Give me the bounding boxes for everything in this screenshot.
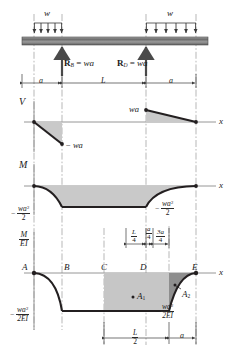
- shear-left-peak-label: − wa: [66, 140, 83, 150]
- shear-right-peak-label: wa: [129, 104, 139, 114]
- moment-left-num: wa: [18, 204, 27, 213]
- dim-left-a-label: a: [39, 76, 43, 85]
- dim-L-over-2-label: L 2: [132, 329, 138, 345]
- moment-right-min-label: − wa2 2: [155, 200, 174, 216]
- point-label-D: D: [140, 262, 147, 272]
- moment-y-axis-label: M: [19, 159, 27, 170]
- mei-x-axis-label: x: [219, 267, 223, 277]
- mei-left-sign: −: [10, 310, 14, 319]
- mei-axis-den: EI: [19, 240, 29, 248]
- centroid-A1-dot: [132, 296, 135, 299]
- moment-panel: [24, 164, 216, 215]
- moment-left-min-label: − wa2 2: [11, 205, 30, 221]
- dim-L-over-4-label: L 4: [131, 229, 137, 244]
- reaction-left-equals: =: [76, 58, 81, 68]
- point-label-B: B: [64, 262, 70, 272]
- mei-left-exp: 2: [26, 306, 28, 311]
- mei-left-min-label: − wa2 2EI: [10, 306, 29, 322]
- moment-left-sign: −: [11, 209, 15, 218]
- shear-left-value: wa: [73, 140, 83, 150]
- mei-left-den: 2EI: [16, 315, 29, 323]
- dim-overhang-a-label: a: [180, 331, 184, 340]
- load-right-label: w: [167, 8, 173, 18]
- area-A2-sub: 2: [188, 293, 191, 299]
- area-label-A2: A2: [182, 289, 190, 299]
- mei-curve-left: [34, 273, 62, 311]
- reaction-right-value: wa: [137, 58, 148, 68]
- area-label-A1: A1: [137, 291, 145, 301]
- beam-panel: [22, 23, 208, 88]
- mei-right-sign: −: [155, 307, 159, 316]
- shear-y-axis-label: V: [19, 96, 25, 107]
- mei-right-num: wa: [162, 302, 171, 311]
- dim-L2-den: 2: [132, 338, 138, 346]
- reaction-right-equals: =: [130, 58, 135, 68]
- moment-right-num: wa: [162, 199, 171, 208]
- mei-y-axis-label: M EI: [19, 231, 29, 248]
- load-left-label: w: [44, 8, 50, 18]
- dim-3a4-den: 4: [156, 237, 165, 244]
- point-label-E: E: [192, 262, 198, 272]
- dim-a-over-4-label: a 4: [146, 226, 152, 241]
- reaction-left-subscript: B: [71, 62, 74, 68]
- mei-right-min-label: − wa2 2EI: [155, 303, 174, 319]
- mei-right-exp: 2: [171, 303, 173, 308]
- dim-a4-den: 4: [146, 234, 152, 241]
- area-A1-sub: 1: [143, 295, 146, 301]
- moment-left-exp: 2: [27, 205, 29, 210]
- mei-panel: [24, 232, 216, 344]
- moment-x-axis-label: x: [219, 180, 223, 190]
- mei-left-num: wa: [17, 305, 26, 314]
- moment-right-den: 2: [161, 209, 174, 217]
- reaction-right-subscript: D: [124, 62, 128, 68]
- beam-member: [22, 37, 208, 45]
- moment-left-den: 2: [17, 214, 30, 222]
- point-A-dot: [32, 271, 36, 275]
- moment-right-sign: −: [155, 204, 159, 213]
- dim-right-a-label: a: [169, 76, 173, 85]
- point-label-C: C: [101, 262, 107, 272]
- mei-right-den: 2EI: [161, 312, 174, 320]
- shear-panel: [24, 101, 216, 152]
- reaction-left-value: wa: [84, 58, 95, 68]
- reaction-left-label: RB = wa: [64, 58, 94, 68]
- dim-3a-over-4-label: 3a 4: [156, 229, 165, 244]
- dim-L4-den: 4: [131, 237, 137, 244]
- shear-x-axis-label: x: [219, 116, 223, 126]
- moment-right-exp: 2: [171, 200, 173, 205]
- distributed-load-right: [146, 23, 196, 33]
- shear-left-minus: −: [66, 140, 71, 150]
- beam-analysis-figure: [0, 0, 232, 350]
- reaction-right-label: RD = wa: [117, 58, 148, 68]
- dim-span-L-label: L: [101, 76, 105, 85]
- point-label-A: A: [22, 262, 28, 272]
- distributed-load-left: [34, 23, 62, 33]
